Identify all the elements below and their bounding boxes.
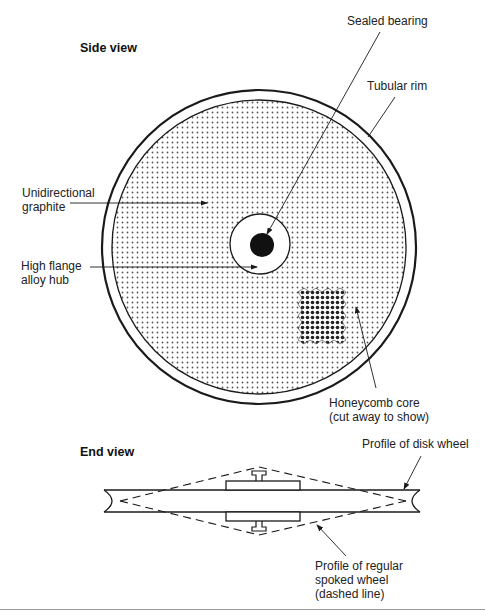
unidirectional-graphite-label: Unidirectional graphite	[22, 186, 95, 214]
tubular-rim-label: Tubular rim	[367, 79, 427, 93]
honeycomb-core-cutaway	[298, 288, 346, 344]
side-view-wheel	[102, 90, 416, 404]
end-view-title: End view	[80, 445, 134, 459]
sealed-bearing	[250, 233, 274, 257]
end-view-profile	[104, 456, 421, 556]
spoked-wheel-dashed-profile	[120, 467, 406, 535]
high-flange-hub-label: High flange alloy hub	[21, 259, 82, 287]
honeycomb-core-label: Honeycomb core (cut away to show)	[329, 396, 429, 424]
sealed-bearing-label: Sealed bearing	[347, 14, 428, 28]
side-view-title: Side view	[80, 41, 137, 55]
spoked-wheel-profile-label: Profile of regular spoked wheel (dashed …	[315, 559, 403, 601]
bottom-rule	[0, 609, 485, 610]
disk-wheel-profile-label: Profile of disk wheel	[362, 437, 469, 451]
